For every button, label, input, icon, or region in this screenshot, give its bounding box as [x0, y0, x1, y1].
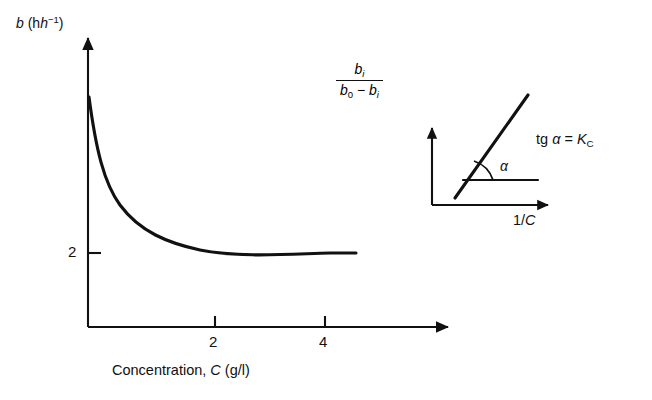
inset-equation-lhs: tg [536, 131, 552, 147]
main-y-axis-unit-close: ) [59, 15, 64, 31]
inset-angle-label: α [500, 158, 508, 174]
inset-equation-relation: = [560, 131, 577, 147]
inset-slope-line [455, 95, 528, 198]
main-x-tick-label-4: 4 [319, 333, 327, 350]
main-x-axis-caption-prefix: Concentration, [112, 362, 210, 378]
main-y-axis-unit-exponent: −1 [48, 14, 59, 25]
inset-denominator-first-symbol: b [340, 82, 348, 98]
inset-numerator-subscript: i [362, 68, 364, 79]
inset-y-axis-fraction-label: bi b0 − bi [336, 62, 383, 101]
main-y-axis-unit-open: (h [24, 15, 40, 31]
inset-denominator-operator: − [353, 82, 369, 98]
main-plot-axes [88, 38, 448, 327]
inset-equation-rhs-symbol: K [577, 131, 587, 147]
inset-x-axis-label: 1/C [513, 212, 536, 228]
inset-x-axis-label-symbol: C [525, 212, 535, 228]
inset-fraction-numerator: bi [336, 62, 383, 80]
main-y-axis-unit-symbol: h [40, 15, 48, 31]
inset-x-axis-label-prefix: 1/ [513, 212, 525, 228]
main-x-axis-caption: Concentration, C (g/l) [112, 362, 250, 378]
main-x-tick-label-2: 2 [209, 333, 217, 350]
main-x-axis-caption-unit: (g/l) [221, 362, 250, 378]
main-y-axis-symbol: b [16, 15, 24, 31]
main-y-axis-label: b (hh−1) [16, 14, 63, 31]
inset-equation-rhs-subscript: C [587, 138, 594, 149]
inset-angle-arc [474, 161, 493, 180]
main-decay-curve [89, 97, 356, 255]
main-x-axis-caption-symbol: C [210, 362, 220, 378]
inset-content-group [455, 95, 538, 198]
inset-denominator-second-symbol: b [369, 82, 377, 98]
inset-fraction-denominator: b0 − bi [336, 80, 383, 100]
inset-denominator-second-subscript: i [377, 89, 379, 100]
main-curve-group [89, 97, 356, 255]
inset-plot-axes [432, 128, 548, 205]
figure-root: b (hh−1) 2 2 4 Concentration, C (g/l) bi… [0, 0, 652, 400]
main-y-tick-label-2: 2 [68, 243, 76, 260]
inset-equation-label: tg α = KC [536, 131, 594, 149]
